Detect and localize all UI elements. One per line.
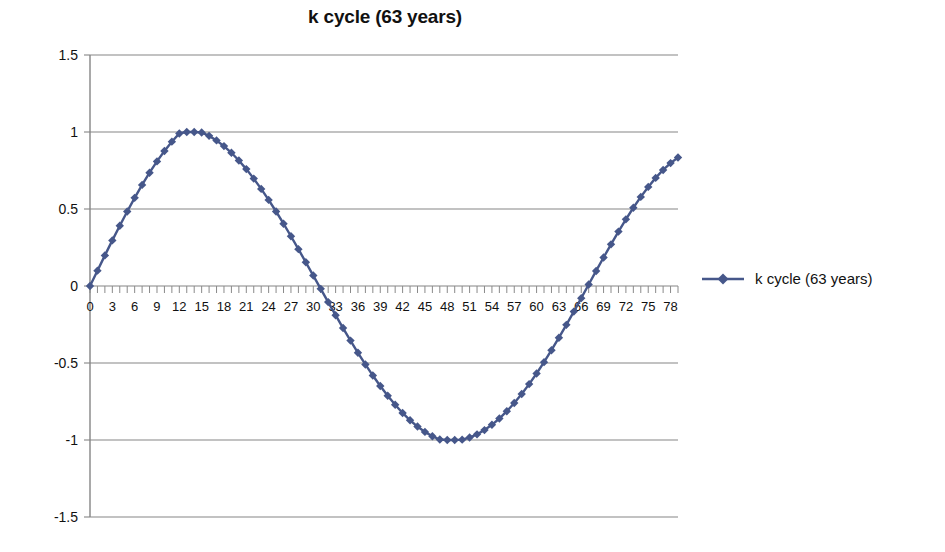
x-tick-label: 45 <box>418 299 432 314</box>
diamond-marker-icon <box>700 271 746 287</box>
x-tick-label: 54 <box>485 299 499 314</box>
chart-legend: k cycle (63 years) <box>700 270 873 287</box>
y-tick-label: 1 <box>70 124 78 140</box>
x-tick-label: 12 <box>172 299 186 314</box>
x-tick-label: 30 <box>306 299 320 314</box>
y-tick-label: 0 <box>70 278 78 294</box>
x-tick-label: 63 <box>552 299 566 314</box>
x-tick-label: 57 <box>507 299 521 314</box>
y-tick-label: -0.5 <box>54 355 78 371</box>
y-tick-label: -1.5 <box>54 509 78 525</box>
series-marker <box>458 435 466 443</box>
x-tick-label: 36 <box>351 299 365 314</box>
x-tick-label: 24 <box>261 299 275 314</box>
chart-container: k cycle (63 years) 1.510.50-0.5-1-1.5036… <box>0 0 945 552</box>
x-tick-label: 51 <box>462 299 476 314</box>
series-marker <box>101 251 109 259</box>
x-tick-label: 6 <box>131 299 138 314</box>
legend-item-label: k cycle (63 years) <box>755 270 873 287</box>
x-tick-label: 39 <box>373 299 387 314</box>
x-tick-label: 0 <box>86 299 93 314</box>
x-tick-label: 78 <box>663 299 677 314</box>
series-marker <box>93 266 101 274</box>
series-marker <box>86 282 94 290</box>
x-tick-label: 18 <box>217 299 231 314</box>
series-marker <box>443 436 451 444</box>
series-marker <box>190 128 198 136</box>
series-marker <box>183 128 191 136</box>
series-marker <box>108 236 116 244</box>
x-tick-label: 75 <box>641 299 655 314</box>
series-marker <box>436 435 444 443</box>
y-tick-label: 1.5 <box>59 47 79 63</box>
x-tick-label: 27 <box>284 299 298 314</box>
x-tick-label: 60 <box>529 299 543 314</box>
x-tick-label: 42 <box>395 299 409 314</box>
y-tick-label: 0.5 <box>59 201 79 217</box>
series-marker <box>197 128 205 136</box>
series-marker <box>451 436 459 444</box>
x-tick-label: 15 <box>194 299 208 314</box>
x-tick-label: 9 <box>153 299 160 314</box>
series-marker <box>116 222 124 230</box>
x-tick-label: 69 <box>596 299 610 314</box>
x-tick-label: 48 <box>440 299 454 314</box>
x-tick-label: 3 <box>109 299 116 314</box>
y-tick-label: -1 <box>66 432 79 448</box>
x-tick-label: 72 <box>619 299 633 314</box>
x-tick-label: 21 <box>239 299 253 314</box>
